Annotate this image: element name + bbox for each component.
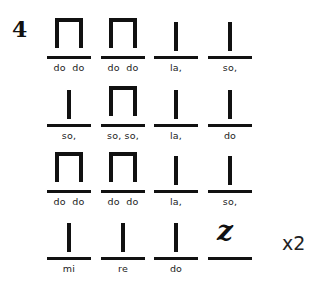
quarter-rest-icon: z bbox=[217, 217, 233, 245]
quarter-note-stem-icon bbox=[228, 22, 232, 51]
quarter-note-stem-icon bbox=[228, 90, 232, 119]
beat-line bbox=[208, 124, 252, 127]
quarter-note-stem-icon bbox=[67, 90, 71, 119]
solfege-label: mi bbox=[47, 264, 91, 274]
beat-line bbox=[47, 190, 91, 193]
beat-line bbox=[208, 257, 252, 260]
beat-line bbox=[154, 56, 198, 59]
solfege-label: la, bbox=[154, 63, 198, 73]
beat-line bbox=[101, 56, 145, 59]
solfege-label: do do bbox=[101, 63, 145, 73]
solfege-label: la, bbox=[154, 197, 198, 207]
beat-line bbox=[154, 190, 198, 193]
quarter-note-stem-icon bbox=[174, 156, 178, 185]
beat-line bbox=[154, 124, 198, 127]
quarter-note-stem-icon bbox=[174, 223, 178, 252]
beat-line bbox=[208, 56, 252, 59]
solfege-label: do bbox=[154, 264, 198, 274]
solfege-label: do bbox=[208, 131, 252, 141]
quarter-note-stem-icon bbox=[174, 90, 178, 119]
beat-line bbox=[47, 257, 91, 260]
solfege-label: do do bbox=[101, 197, 145, 207]
solfege-label: so, bbox=[47, 131, 91, 141]
repeat-marker: x2 bbox=[282, 234, 305, 253]
solfege-label: so, so, bbox=[101, 131, 145, 141]
quarter-note-stem-icon bbox=[228, 156, 232, 185]
quarter-note-stem-icon bbox=[67, 223, 71, 252]
solfege-label: so, bbox=[208, 63, 252, 73]
quarter-note-stem-icon bbox=[174, 22, 178, 51]
beat-line bbox=[154, 257, 198, 260]
solfege-label: la, bbox=[154, 131, 198, 141]
solfege-label: so, bbox=[208, 197, 252, 207]
solfege-label: do do bbox=[47, 197, 91, 207]
beat-line bbox=[101, 257, 145, 260]
beat-line bbox=[208, 190, 252, 193]
beat-line bbox=[47, 124, 91, 127]
beat-line bbox=[101, 190, 145, 193]
exercise-number: 4 bbox=[12, 18, 27, 40]
solfege-label: do do bbox=[47, 63, 91, 73]
beat-line bbox=[47, 56, 91, 59]
solfege-label: re bbox=[101, 264, 145, 274]
beat-line bbox=[101, 124, 145, 127]
quarter-note-stem-icon bbox=[121, 223, 125, 252]
